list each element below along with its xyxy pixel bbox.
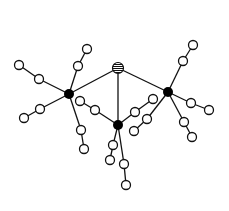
- leaf-node-icon: [130, 127, 139, 136]
- edge-hubB-B2a: [118, 125, 124, 164]
- hub-node-icon: [113, 120, 123, 130]
- edge-center-hubR: [118, 68, 168, 92]
- leaf-node-icon: [122, 181, 131, 190]
- leaf-node-icon: [106, 156, 115, 165]
- leaf-node-icon: [149, 95, 158, 104]
- leaf-node-icon: [143, 115, 152, 124]
- leaf-node-icon: [35, 75, 44, 84]
- hub-node-icon: [64, 89, 74, 99]
- leaf-node-icon: [36, 105, 45, 114]
- hub-node-icon: [163, 87, 173, 97]
- leaf-node-icon: [205, 106, 214, 115]
- leaf-node-icon: [131, 108, 140, 117]
- leaf-node-icon: [179, 57, 188, 66]
- leaf-node-icon: [120, 160, 129, 169]
- edge-hubR-R1a: [168, 61, 183, 92]
- leaf-node-icon: [74, 62, 83, 71]
- leaf-node-icon: [91, 106, 100, 115]
- center-striped-node-icon: [113, 63, 124, 74]
- leaf-node-icon: [77, 126, 86, 135]
- leaf-node-icon: [189, 41, 198, 50]
- leaf-node-icon: [188, 133, 197, 142]
- leaf-node-icon: [187, 99, 196, 108]
- nodes-layer: [15, 41, 214, 190]
- leaf-node-icon: [83, 45, 92, 54]
- leaf-node-icon: [20, 114, 29, 123]
- network-diagram: [0, 0, 229, 211]
- leaf-node-icon: [180, 118, 189, 127]
- leaf-node-icon: [80, 145, 89, 154]
- leaf-node-icon: [15, 61, 24, 70]
- leaf-node-icon: [76, 97, 85, 106]
- leaf-node-icon: [109, 141, 118, 150]
